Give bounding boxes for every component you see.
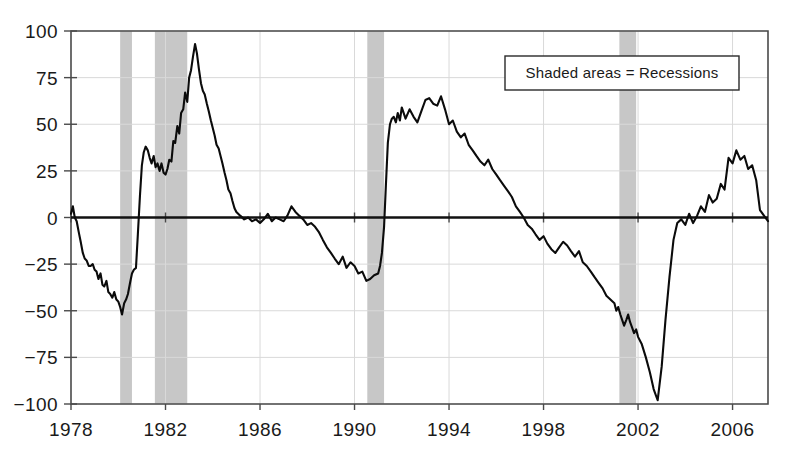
y-tick-label-75: 75 <box>36 68 58 89</box>
y-tick-label-100: 100 <box>25 21 58 42</box>
x-tick-label-1990: 1990 <box>333 419 377 440</box>
y-tick-label--100: −100 <box>14 394 58 415</box>
y-tick-label-25: 25 <box>36 161 58 182</box>
x-tick-label-2006: 2006 <box>711 419 755 440</box>
x-tick-label-1994: 1994 <box>427 419 471 440</box>
y-tick-label-0: 0 <box>47 208 58 229</box>
x-tick-label-1982: 1982 <box>144 419 188 440</box>
y-tick-label-50: 50 <box>36 114 58 135</box>
y-tick-label--25: −25 <box>25 254 58 275</box>
x-tick-label-1978: 1978 <box>49 419 93 440</box>
y-tick-label--50: −50 <box>25 301 58 322</box>
x-tick-label-1986: 1986 <box>238 419 282 440</box>
x-tick-label-2002: 2002 <box>616 419 660 440</box>
x-tick-label-1998: 1998 <box>522 419 566 440</box>
legend-annotation: Shaded areas = Recessions <box>505 56 739 90</box>
y-tick-label--75: −75 <box>25 347 58 368</box>
recession-line-chart: 1007550250−25−50−75−100 1978198219861990… <box>0 0 805 455</box>
legend-label: Shaded areas = Recessions <box>525 64 718 81</box>
chart-container: 1007550250−25−50−75−100 1978198219861990… <box>0 0 805 455</box>
